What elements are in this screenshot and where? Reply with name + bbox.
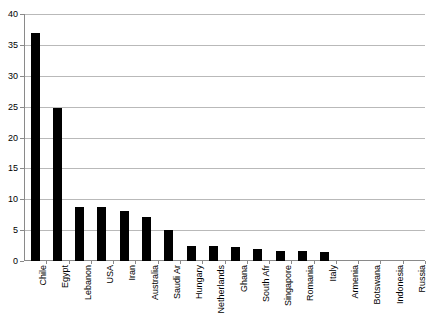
y-tick-label: 5 bbox=[13, 226, 18, 235]
x-tick-label-text: Australia bbox=[151, 265, 160, 300]
x-tick-label: Singapore bbox=[284, 265, 293, 306]
x-tick-label-text: Armenia bbox=[351, 265, 360, 299]
x-tick-mark bbox=[358, 261, 359, 264]
bar bbox=[75, 207, 84, 261]
y-tick-label: 0 bbox=[13, 257, 18, 266]
x-tick-label: Russia bbox=[418, 265, 427, 293]
y-tick-label: 10 bbox=[8, 195, 18, 204]
x-tick-mark bbox=[91, 261, 92, 264]
x-tick-label-text: Chile bbox=[39, 265, 48, 286]
x-tick-label: Lebanon bbox=[84, 265, 93, 300]
x-tick-mark bbox=[403, 261, 404, 264]
x-tick-mark bbox=[180, 261, 181, 264]
bar bbox=[320, 252, 329, 261]
x-tick-label-text: Hungary bbox=[195, 265, 204, 299]
x-tick-mark bbox=[202, 261, 203, 264]
x-tick-label: Botswana bbox=[373, 265, 382, 305]
bar bbox=[253, 249, 262, 261]
x-tick-label: Australia bbox=[151, 265, 160, 300]
bar bbox=[187, 246, 196, 261]
x-tick-label-text: Iran bbox=[128, 265, 137, 281]
y-tick-label: 35 bbox=[8, 41, 18, 50]
x-tick-mark bbox=[46, 261, 47, 264]
x-tick-label: Romania bbox=[306, 265, 315, 301]
x-tick-mark bbox=[314, 261, 315, 264]
x-tick-mark bbox=[247, 261, 248, 264]
x-tick-label: Ghana bbox=[240, 265, 249, 292]
x-tick-label: Chile bbox=[39, 265, 48, 286]
bar bbox=[164, 230, 173, 261]
x-tick-label-text: Indonesia bbox=[396, 265, 405, 304]
x-tick-label: South Afr bbox=[262, 265, 271, 302]
x-tick-label: Iran bbox=[128, 265, 137, 281]
y-tick-label: 25 bbox=[8, 103, 18, 112]
x-tick-label-text: Singapore bbox=[284, 265, 293, 306]
bar-chart: 0510152025303540 ChileEgyptLebanonUSAIra… bbox=[0, 0, 438, 330]
bar bbox=[209, 246, 218, 261]
bar bbox=[231, 247, 240, 261]
x-tick-mark bbox=[113, 261, 114, 264]
x-tick-label-text: Netherlands bbox=[217, 265, 226, 314]
x-tick-mark bbox=[158, 261, 159, 264]
x-axis: ChileEgyptLebanonUSAIranAustraliaSaudi A… bbox=[24, 265, 425, 330]
x-tick-label: Armenia bbox=[351, 265, 360, 299]
x-tick-label: Saudi Ar bbox=[173, 265, 182, 299]
x-tick-label-text: Saudi Ar bbox=[173, 265, 182, 299]
bar bbox=[298, 251, 307, 261]
y-tick-label: 20 bbox=[8, 134, 18, 143]
x-tick-label-text: Italy bbox=[329, 265, 338, 282]
x-tick-label-text: Egypt bbox=[61, 265, 70, 288]
x-tick-label: USA bbox=[106, 265, 115, 284]
bar bbox=[142, 217, 151, 261]
x-tick-label-text: Botswana bbox=[373, 265, 382, 305]
bar bbox=[53, 108, 62, 261]
x-tick-mark bbox=[69, 261, 70, 264]
x-tick-label-text: Russia bbox=[418, 265, 427, 293]
bar bbox=[31, 33, 40, 261]
x-tick-label-text: USA bbox=[106, 265, 115, 284]
y-tick-label: 30 bbox=[8, 72, 18, 81]
x-tick-mark bbox=[269, 261, 270, 264]
x-tick-label-text: Lebanon bbox=[84, 265, 93, 300]
x-tick-mark bbox=[135, 261, 136, 264]
bar bbox=[120, 211, 129, 261]
x-tick-label: Netherlands bbox=[217, 265, 226, 314]
x-tick-label: Hungary bbox=[195, 265, 204, 299]
y-axis: 0510152025303540 bbox=[0, 0, 24, 275]
x-tick-mark bbox=[291, 261, 292, 264]
x-tick-label: Egypt bbox=[61, 265, 70, 288]
x-tick-label-text: Romania bbox=[306, 265, 315, 301]
x-tick-label-text: Ghana bbox=[240, 265, 249, 292]
y-tick-label: 40 bbox=[8, 10, 18, 19]
x-tick-label: Indonesia bbox=[396, 265, 405, 304]
x-tick-mark bbox=[380, 261, 381, 264]
x-tick-label: Italy bbox=[329, 265, 338, 282]
y-tick-label: 15 bbox=[8, 164, 18, 173]
x-tick-label-text: South Afr bbox=[262, 265, 271, 302]
x-tick-mark bbox=[425, 261, 426, 264]
bars-layer bbox=[24, 14, 425, 261]
bar bbox=[97, 207, 106, 261]
bar bbox=[276, 251, 285, 261]
